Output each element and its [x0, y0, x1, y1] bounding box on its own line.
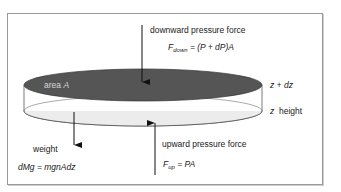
weight-title: weight	[33, 145, 58, 154]
area-text: area	[44, 80, 63, 90]
hydrostatic-diagram: downward pressure force Fdown = (P + dP)…	[0, 0, 341, 192]
z-height-label: z height	[270, 107, 302, 116]
upward-force-title: upward pressure force	[162, 140, 247, 149]
z-symbol: z	[270, 106, 274, 116]
formula-subscript-up: up	[168, 164, 175, 170]
height-word: height	[279, 106, 302, 116]
formula-subscript-down: down	[173, 47, 187, 53]
weight-formula: dMg = mgnAdz	[18, 163, 75, 172]
formula-rest: = (P + dP)A	[188, 42, 234, 52]
downward-force-formula: Fdown = (P + dP)A	[168, 43, 234, 52]
z-plus-dz-label: z + dz	[270, 81, 293, 90]
formula-rest-up: = PA	[175, 159, 195, 169]
area-label: area A	[44, 81, 69, 90]
bottom-face-front	[24, 111, 262, 126]
upward-force-formula: Fup = PA	[163, 160, 195, 169]
downward-force-title: downward pressure force	[150, 26, 245, 35]
area-symbol: A	[63, 80, 69, 90]
